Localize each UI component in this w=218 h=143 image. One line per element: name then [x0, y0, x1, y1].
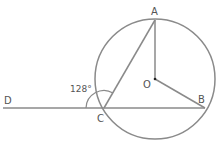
geometry-diagram: A B C D O 128°	[0, 0, 218, 143]
angle-label: 128°	[70, 84, 92, 94]
label-c: C	[97, 113, 104, 124]
label-d: D	[4, 95, 12, 106]
chord-ca	[104, 20, 155, 108]
center-point	[154, 78, 157, 81]
label-o: O	[143, 79, 151, 90]
label-a: A	[151, 6, 158, 17]
label-b: B	[198, 94, 205, 105]
